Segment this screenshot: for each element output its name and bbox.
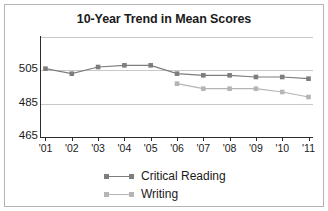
x-tick-mark-5 xyxy=(177,137,178,141)
legend-label-writing: Writing xyxy=(141,187,178,201)
data-point-marker xyxy=(306,95,311,100)
x-tick-label-5: '06 xyxy=(164,142,190,154)
legend-item-critical-reading: Critical Reading xyxy=(104,167,274,185)
legend-label-critical-reading: Critical Reading xyxy=(141,169,226,183)
x-tick-label-9: '10 xyxy=(269,142,295,154)
x-tick-mark-2 xyxy=(98,137,99,141)
data-point-marker xyxy=(227,86,232,91)
x-tick-mark-0 xyxy=(45,137,46,141)
data-point-marker xyxy=(175,71,180,76)
data-point-marker xyxy=(96,65,101,70)
x-tick-label-4: '05 xyxy=(138,142,164,154)
data-point-marker xyxy=(69,71,74,76)
x-tick-mark-7 xyxy=(230,137,231,141)
x-tick-mark-8 xyxy=(256,137,257,141)
data-point-marker xyxy=(280,90,285,95)
x-tick-label-7: '08 xyxy=(217,142,243,154)
x-tick-mark-10 xyxy=(309,137,310,141)
x-tick-label-8: '09 xyxy=(243,142,269,154)
data-point-marker xyxy=(306,76,311,81)
x-tick-mark-4 xyxy=(151,137,152,141)
x-tick-mark-1 xyxy=(72,137,73,141)
data-point-marker xyxy=(201,86,206,91)
x-tick-label-10: '11 xyxy=(296,142,322,154)
line-marker-icon xyxy=(104,171,134,181)
legend-item-writing: Writing xyxy=(104,185,274,203)
x-tick-mark-3 xyxy=(124,137,125,141)
data-point-marker xyxy=(148,63,153,68)
data-point-marker xyxy=(254,86,259,91)
data-point-marker xyxy=(254,75,259,80)
line-marker-icon xyxy=(104,189,134,199)
data-point-marker xyxy=(280,75,285,80)
x-tick-mark-6 xyxy=(203,137,204,141)
legend-marker-right xyxy=(129,192,134,197)
x-tick-label-2: '03 xyxy=(85,142,111,154)
x-tick-label-0: '01 xyxy=(32,142,58,154)
data-point-marker xyxy=(201,73,206,78)
x-tick-mark-9 xyxy=(282,137,283,141)
x-tick-label-6: '07 xyxy=(190,142,216,154)
chart-legend: Critical Reading Writing xyxy=(104,167,274,203)
data-point-marker xyxy=(43,66,48,71)
data-point-marker xyxy=(227,73,232,78)
chart-figure: 10-Year Trend in Mean Scores 465485505 C… xyxy=(0,0,328,211)
x-tick-label-3: '04 xyxy=(111,142,137,154)
legend-marker-left xyxy=(104,174,109,179)
x-tick-label-1: '02 xyxy=(59,142,85,154)
data-point-marker xyxy=(122,63,127,68)
legend-marker-left xyxy=(104,192,109,197)
legend-marker-right xyxy=(129,174,134,179)
series-line-writing xyxy=(177,84,309,97)
data-point-marker xyxy=(175,81,180,86)
